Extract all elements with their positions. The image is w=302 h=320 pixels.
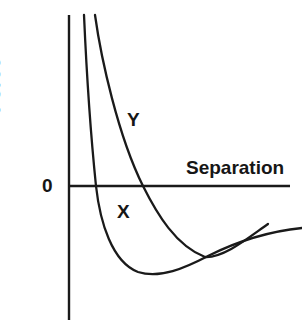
- curve-y-label: Y: [127, 110, 140, 129]
- zero-tick-label: 0: [42, 176, 53, 195]
- x-axis-label: Separation: [186, 158, 284, 177]
- y-axis-label: Force: [0, 47, 3, 123]
- curves-group: [84, 15, 302, 274]
- curve-x-path: [84, 15, 302, 274]
- curve-x-label: X: [117, 202, 130, 221]
- force-separation-figure: Force 0 Separation Y X: [0, 0, 302, 320]
